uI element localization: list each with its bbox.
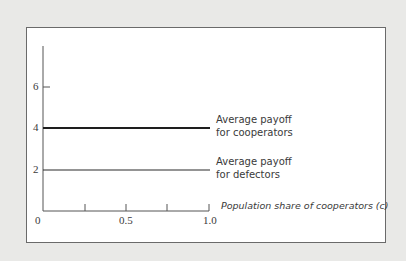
defectors-label-line-1: Average payoff [216,155,292,168]
x-tick-label-0: 0 [35,214,41,226]
y-tick-label-6: 6 [33,80,39,92]
cooperators-label-line-2: for cooperators [216,126,293,139]
y-tick-label-4: 4 [33,121,39,133]
x-axis-label: Population share of cooperators (c) [221,200,389,211]
x-tick-label-1: 1.0 [203,214,217,226]
cooperators-series-label: Average payoff for cooperators [216,113,293,139]
defectors-series-label: Average payoff for defectors [216,155,292,181]
cooperators-label-line-1: Average payoff [216,113,293,126]
y-tick-label-2: 2 [33,163,39,175]
x-tick-label-05: 0.5 [119,214,133,226]
defectors-label-line-2: for defectors [216,168,292,181]
